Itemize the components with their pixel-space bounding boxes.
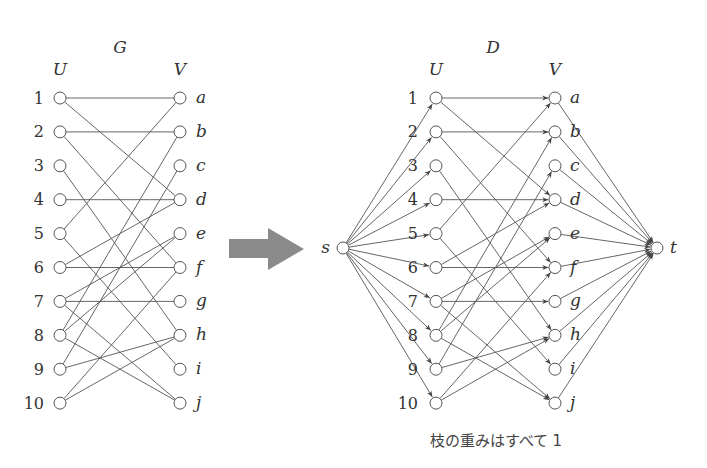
graph-g-label-u-7: 7 <box>34 292 44 311</box>
graph-d-edge-s-9 <box>347 253 432 364</box>
graph-d-label-v-b: b <box>570 121 581 141</box>
graph-g-label-v-g: g <box>196 290 207 310</box>
graph-d-caption: 枝の重みはすべて 1 <box>430 432 562 450</box>
graph-d-label-u-10: 10 <box>398 394 418 413</box>
graph-g-node-v-h <box>174 329 186 341</box>
graph-g-v-label: V <box>174 59 188 79</box>
graph-d-node-u-10 <box>430 397 442 409</box>
graph-d-edge-s-1 <box>346 104 432 243</box>
graph-g-node-v-g <box>174 295 186 307</box>
graph-g-node-v-a <box>174 92 186 104</box>
graph-g-node-u-10 <box>54 397 66 409</box>
graph-g-label-u-2: 2 <box>34 122 44 141</box>
graph-d-edge-s-3 <box>347 170 430 244</box>
graph-g-node-v-e <box>174 228 186 240</box>
graph-d-label-u-3: 3 <box>408 156 418 175</box>
graph-d-node-t <box>651 242 663 254</box>
graph-g-label-v-d: d <box>196 189 207 209</box>
graph-g-node-v-i <box>174 363 186 375</box>
graph-g-label-u-9: 9 <box>34 360 44 379</box>
graph-d-label-v-f: f <box>568 257 579 277</box>
graph-d-label-u-5: 5 <box>408 224 418 243</box>
graph-g-label-v-h: h <box>196 324 207 344</box>
graph-d-label-v-a: a <box>570 87 580 107</box>
graph-d-label-v-g: g <box>570 290 581 310</box>
transform-arrow-icon <box>229 228 304 270</box>
graph-g-node-u-4 <box>54 194 66 206</box>
graph-d-node-u-1 <box>430 92 442 104</box>
graph-g-edges <box>63 98 177 400</box>
graph-d-edge-5-a <box>440 103 551 229</box>
graph-d-label-v-i: i <box>570 358 575 378</box>
graph-d-v-label: V <box>549 59 563 79</box>
diagram-canvas: G U V 12345678910abcdefghij D U V st1234… <box>0 0 707 468</box>
graph-g-node-u-9 <box>54 363 66 375</box>
graph-d-label-v-e: e <box>570 223 580 243</box>
graph-d-label-v-d: d <box>570 189 581 209</box>
graph-g-node-u-5 <box>54 228 66 240</box>
graph-g-node-u-7 <box>54 295 66 307</box>
graph-d-title: D <box>485 37 500 57</box>
graph-d-edge-s-2 <box>347 137 432 243</box>
graph-g-node-u-1 <box>54 92 66 104</box>
graph-d-node-v-f <box>549 262 561 274</box>
graph-g-label-v-f: f <box>194 257 205 277</box>
graph-g-node-v-j <box>174 397 186 409</box>
graph-d-label-s: s <box>321 237 330 257</box>
graph-d-nodes: st12345678910abcdefghij <box>321 87 677 413</box>
graph-d-node-v-d <box>549 194 561 206</box>
graph-g-label-v-a: a <box>196 87 206 107</box>
graph-g-label-u-4: 4 <box>34 190 44 209</box>
graph-g-edge-9-h <box>66 337 174 368</box>
graph-g-node-v-c <box>174 160 186 172</box>
graph-d-label-u-6: 6 <box>408 258 418 277</box>
graph-d-edge-3-h <box>439 171 551 330</box>
graph-d-node-v-c <box>549 160 561 172</box>
graph-d-node-v-e <box>549 228 561 240</box>
graph-d-node-v-h <box>549 329 561 341</box>
graph-d-edge-10-f <box>440 272 551 398</box>
graph-g-label-v-e: e <box>196 223 206 243</box>
graph-d-edges <box>346 98 653 400</box>
graph-d-edge-1-d <box>441 102 550 196</box>
graph-g-node-u-3 <box>54 160 66 172</box>
graph-g-label-v-j: j <box>192 392 202 412</box>
graph-d-node-v-j <box>549 397 561 409</box>
graph-d-label-u-2: 2 <box>408 122 418 141</box>
graph-d-node-u-7 <box>430 295 442 307</box>
graph-d-edge-8-e <box>441 238 550 332</box>
graph-g-label-u-3: 3 <box>34 156 44 175</box>
graph-d-node-s <box>337 242 349 254</box>
graph-g-node-v-d <box>174 194 186 206</box>
graph-d-node-u-2 <box>430 126 442 138</box>
graph-g-nodes: 12345678910abcdefghij <box>24 87 207 413</box>
graph-g-edge-10-f <box>64 272 176 399</box>
graph-d-label-t: t <box>670 237 677 257</box>
graph-d-label-u-4: 4 <box>408 190 418 209</box>
graph-d-node-v-i <box>549 363 561 375</box>
graph-d-node-u-4 <box>430 194 442 206</box>
graph-d-label-u-8: 8 <box>408 326 418 345</box>
graph-d-label-u-9: 9 <box>408 360 418 379</box>
graph-d-node-u-5 <box>430 228 442 240</box>
graph-g-label-v-i: i <box>196 358 201 378</box>
graph-g-label-u-10: 10 <box>24 394 44 413</box>
graph-d-node-u-3 <box>430 160 442 172</box>
graph-g-edge-1-d <box>65 102 176 196</box>
graph-d-node-v-b <box>549 126 561 138</box>
graph-d-label-v-h: h <box>570 324 581 344</box>
graph-d-label-u-7: 7 <box>408 292 418 311</box>
graph-g-label-v-c: c <box>196 155 206 175</box>
graph-d-node-u-8 <box>430 329 442 341</box>
graph-g-label-u-6: 6 <box>34 258 44 277</box>
graph-g-label-u-1: 1 <box>34 89 44 108</box>
graph-g-node-u-8 <box>54 329 66 341</box>
graph-d-u-label: U <box>429 59 444 79</box>
graph-g-node-v-b <box>174 126 186 138</box>
graph-d-label-v-c: c <box>570 155 580 175</box>
graph-d-label-u-1: 1 <box>408 89 418 108</box>
graph-g-node-u-6 <box>54 262 66 274</box>
graph-d-edge-9-h <box>442 337 549 367</box>
graph-d-node-u-9 <box>430 363 442 375</box>
graph-g-u-label: U <box>53 59 68 79</box>
